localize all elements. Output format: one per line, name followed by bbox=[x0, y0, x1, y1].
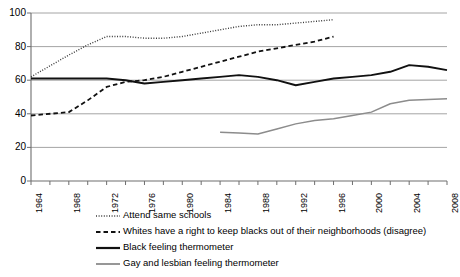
solid-gray-line-swatch bbox=[96, 256, 120, 268]
y-axis-ticks bbox=[27, 13, 31, 181]
x-tick-label: 1964 bbox=[35, 193, 44, 213]
y-tick-label: 20 bbox=[0, 142, 26, 152]
legend-item-label: Whites have a right to keep blacks out o… bbox=[123, 225, 426, 236]
y-tick-label: 60 bbox=[0, 75, 26, 85]
legend-item: Attend same schools bbox=[96, 206, 452, 222]
x-axis-ticks bbox=[31, 181, 447, 185]
dotted-line-swatch bbox=[96, 208, 120, 220]
legend-item: Black feeling thermometer bbox=[96, 238, 452, 254]
series-line-4 bbox=[220, 99, 447, 134]
gridlines bbox=[31, 13, 447, 147]
data-series-group bbox=[31, 20, 447, 134]
legend-item: Whites have a right to keep blacks out o… bbox=[96, 222, 452, 238]
axis-lines bbox=[31, 13, 447, 181]
y-tick-label: 80 bbox=[0, 42, 26, 52]
y-tick-label: 100 bbox=[0, 8, 26, 18]
dashed-line-swatch bbox=[96, 224, 120, 236]
legend-item-label: Black feeling thermometer bbox=[123, 241, 233, 252]
chart-legend: Attend same schoolsWhites have a right t… bbox=[96, 206, 452, 270]
legend-item: Gay and lesbian feeling thermometer bbox=[96, 254, 452, 270]
series-line-1 bbox=[31, 20, 334, 77]
legend-item-label: Attend same schools bbox=[123, 209, 211, 220]
y-tick-label: 40 bbox=[0, 109, 26, 119]
x-tick-label: 2008 bbox=[451, 193, 460, 213]
x-tick-label: 1968 bbox=[73, 193, 82, 213]
legend-item-label: Gay and lesbian feeling thermometer bbox=[123, 257, 279, 268]
y-tick-label: 0 bbox=[0, 176, 26, 186]
solid-black-line-swatch bbox=[96, 240, 120, 252]
series-line-3 bbox=[31, 65, 447, 85]
series-line-2 bbox=[31, 37, 334, 116]
